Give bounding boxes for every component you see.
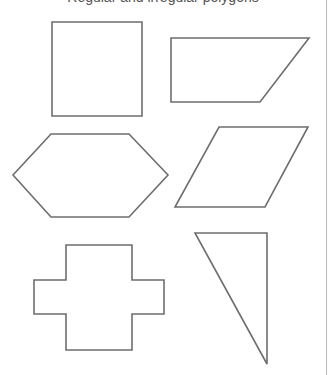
- right-triangle-shape: [195, 233, 267, 364]
- trapezoid-shape: [171, 38, 309, 102]
- hexagon-shape: [13, 134, 168, 217]
- rhombus-shape: [175, 127, 308, 207]
- shapes-canvas: [0, 0, 330, 375]
- square-shape: [52, 22, 142, 116]
- page-border-line: [326, 0, 327, 375]
- cross-shape: [34, 245, 164, 350]
